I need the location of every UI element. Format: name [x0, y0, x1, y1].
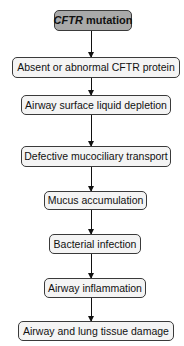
node-bacterial: Bacterial infection: [49, 234, 141, 254]
node-label: Airway surface liquid depletion: [25, 100, 167, 111]
node-label: Defective mucociliary transport: [24, 151, 168, 162]
node-tissue-damage: Airway and lung tissue damage: [18, 321, 174, 341]
arrow-1: [91, 31, 92, 57]
node-label: Mucus accumulation: [48, 195, 144, 206]
arrow-6: [91, 254, 92, 278]
arrow-7: [91, 298, 92, 321]
arrow-2: [91, 78, 92, 95]
node-inflammation: Airway inflammation: [44, 278, 146, 298]
node-cftr-mutation: CFTR mutation: [54, 10, 132, 31]
node-mucus: Mucus accumulation: [44, 191, 147, 210]
node-label: Airway and lung tissue damage: [23, 326, 169, 337]
arrow-4: [91, 167, 92, 191]
node-absent-protein: Absent or abnormal CFTR protein: [12, 57, 180, 78]
arrow-3: [91, 115, 92, 146]
node-cftr-rest: mutation: [83, 15, 133, 26]
node-mucociliary: Defective mucociliary transport: [21, 146, 171, 167]
arrow-5: [91, 210, 92, 234]
node-label: Bacterial infection: [54, 239, 137, 250]
node-cftr-italic: CFTR: [54, 15, 83, 26]
node-asl-depletion: Airway surface liquid depletion: [21, 95, 171, 115]
node-label: Airway inflammation: [48, 283, 142, 294]
node-label: Absent or abnormal CFTR protein: [17, 62, 175, 73]
